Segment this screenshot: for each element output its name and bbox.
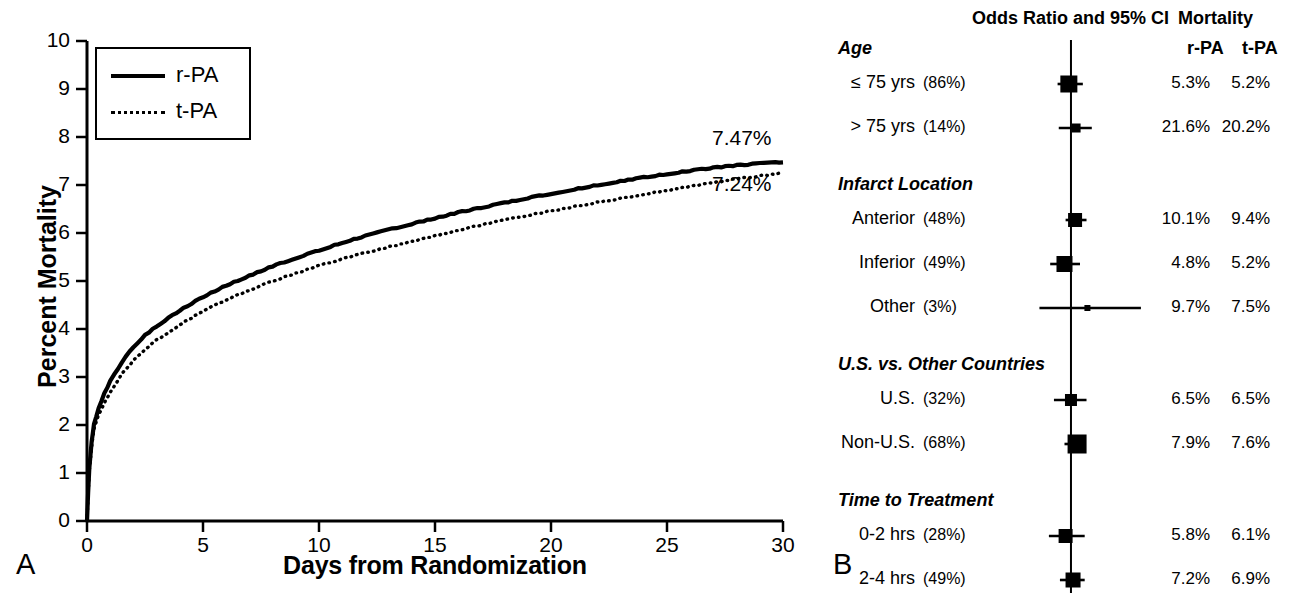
row-proportion: (48%) — [923, 210, 973, 228]
cell-mortality-t-pa: 6.5% — [1220, 389, 1270, 409]
cell-mortality-r-pa: 4.8% — [1160, 253, 1210, 273]
cell-mortality-t-pa: 5.2% — [1220, 73, 1270, 93]
row-proportion: (86%) — [923, 74, 973, 92]
effect-size-box — [1072, 124, 1081, 133]
row-label: > 75 yrs — [830, 116, 915, 137]
legend-item-t-pa: t-PA — [97, 97, 249, 127]
legend-swatch-solid-icon — [111, 74, 165, 78]
row-proportion: (14%) — [923, 118, 973, 136]
cell-mortality-t-pa: 7.5% — [1220, 297, 1270, 317]
x-tick-label: 0 — [57, 533, 117, 557]
x-tick-label: 15 — [405, 533, 465, 557]
cell-mortality-r-pa: 5.3% — [1160, 73, 1210, 93]
annotation-t-pa-final: 7.24% — [712, 172, 772, 196]
group-title-u-s-vs-other-countries: U.S. vs. Other Countries — [838, 354, 1045, 375]
group-title-age: Age — [838, 38, 872, 59]
y-tick-label: 2 — [26, 412, 70, 436]
y-tick-label: 0 — [26, 508, 70, 532]
x-tick-label: 10 — [289, 533, 349, 557]
y-tick-label: 7 — [26, 172, 70, 196]
header-odds-ratio: Odds Ratio and 95% CI — [972, 8, 1169, 29]
effect-size-box — [1066, 573, 1081, 588]
x-tick-label: 20 — [521, 533, 581, 557]
row-label: U.S. — [830, 388, 915, 409]
cell-mortality-t-pa: 6.9% — [1220, 569, 1270, 589]
cell-mortality-r-pa: 5.8% — [1160, 525, 1210, 545]
x-tick-label: 30 — [753, 533, 813, 557]
cell-mortality-r-pa: 7.2% — [1160, 569, 1210, 589]
panel-letter-b: B — [833, 548, 852, 581]
x-tick-label: 5 — [173, 533, 233, 557]
cell-mortality-r-pa: 9.7% — [1160, 297, 1210, 317]
legend-item-r-pa: r-PA — [97, 61, 249, 91]
effect-size-box — [1084, 305, 1090, 311]
header-col-r-pa: r-PA — [1187, 38, 1224, 59]
cell-mortality-t-pa: 7.6% — [1220, 433, 1270, 453]
cell-mortality-r-pa: 21.6% — [1160, 117, 1210, 137]
row-label: Non-U.S. — [830, 432, 915, 453]
y-tick-label: 5 — [26, 268, 70, 292]
cell-mortality-r-pa: 6.5% — [1160, 389, 1210, 409]
row-proportion: (32%) — [923, 390, 973, 408]
annotation-r-pa-final: 7.47% — [712, 126, 772, 150]
cell-mortality-r-pa: 7.9% — [1160, 433, 1210, 453]
cell-mortality-t-pa: 6.1% — [1220, 525, 1270, 545]
cell-mortality-r-pa: 10.1% — [1160, 209, 1210, 229]
y-tick-label: 1 — [26, 460, 70, 484]
y-tick-label: 10 — [26, 28, 70, 52]
curve-tpa — [87, 173, 783, 521]
legend-label-r-pa: r-PA — [176, 62, 218, 88]
panel-b-forest-plot: Odds Ratio and 95% CI Mortality r-PA t-P… — [830, 0, 1295, 593]
legend-label-t-pa: t-PA — [176, 98, 217, 124]
figure-root: r-PA t-PA 7.47% 7.24% Days from Randomiz… — [0, 0, 1295, 593]
y-tick-label: 3 — [26, 364, 70, 388]
group-title-time-to-treatment: Time to Treatment — [838, 490, 993, 511]
row-label: ≤ 75 yrs — [830, 72, 915, 93]
y-tick-label: 9 — [26, 76, 70, 100]
cell-mortality-t-pa: 5.2% — [1220, 253, 1270, 273]
cell-mortality-t-pa: 9.4% — [1220, 209, 1270, 229]
panel-a-kaplan-meier: r-PA t-PA 7.47% 7.24% Days from Randomiz… — [0, 0, 830, 593]
y-tick-label: 4 — [26, 316, 70, 340]
row-label: Anterior — [830, 208, 915, 229]
row-label: Other — [830, 296, 915, 317]
curve-rpa — [87, 162, 783, 521]
header-col-t-pa: t-PA — [1242, 38, 1278, 59]
row-proportion: (68%) — [923, 434, 973, 452]
legend-swatch-dotted-icon — [111, 111, 165, 114]
x-tick-label: 25 — [637, 533, 697, 557]
row-proportion: (49%) — [923, 570, 973, 588]
group-title-infarct-location: Infarct Location — [838, 174, 973, 195]
effect-size-box — [1060, 76, 1077, 93]
y-tick-label: 6 — [26, 220, 70, 244]
header-mortality: Mortality — [1178, 8, 1253, 29]
row-label: Inferior — [830, 252, 915, 273]
row-proportion: (49%) — [923, 254, 973, 272]
legend-box: r-PA t-PA — [95, 47, 251, 140]
cell-mortality-t-pa: 20.2% — [1220, 117, 1270, 137]
row-proportion: (3%) — [923, 298, 973, 316]
row-proportion: (28%) — [923, 526, 973, 544]
panel-letter-a: A — [16, 548, 35, 581]
row-label: 0-2 hrs — [830, 524, 915, 545]
y-tick-label: 8 — [26, 124, 70, 148]
